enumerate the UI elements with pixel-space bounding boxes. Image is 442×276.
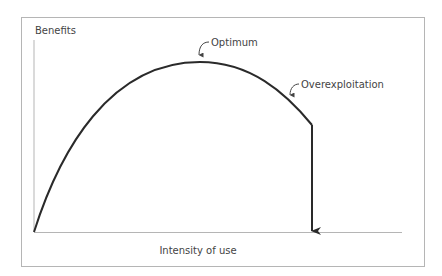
x-axis-label: Intensity of use xyxy=(159,245,236,256)
optimum-pointer-icon xyxy=(199,42,209,55)
overexploitation-pointer-icon xyxy=(290,84,299,95)
y-axis-label: Benefits xyxy=(35,25,76,36)
optimum-label: Optimum xyxy=(211,37,258,48)
frame-border xyxy=(22,18,425,267)
overexploitation-label: Overexploitation xyxy=(301,79,384,90)
benefits-intensity-diagram: Benefits Intensity of use Optimum Overex… xyxy=(0,0,442,276)
benefit-curve xyxy=(34,62,312,232)
